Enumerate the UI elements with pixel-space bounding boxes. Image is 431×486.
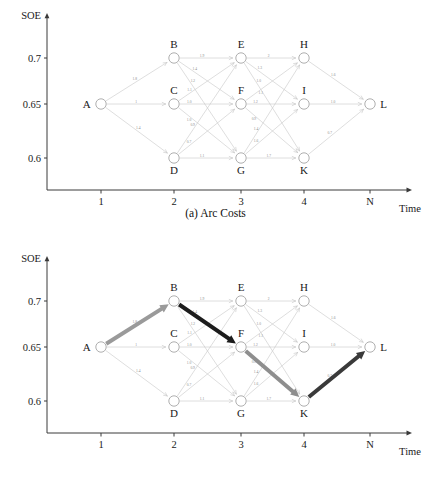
arc-d-f bbox=[179, 109, 235, 154]
arc-c-e bbox=[179, 63, 234, 101]
graph-node-b[interactable] bbox=[169, 296, 179, 306]
arc-d-f bbox=[179, 352, 235, 397]
arc-e-i bbox=[246, 61, 298, 99]
node-label-g: G bbox=[237, 407, 245, 419]
arc-cost-label-d-e: 0.9 bbox=[190, 123, 195, 127]
graph-node-a[interactable] bbox=[96, 99, 106, 109]
panel-arc-costs: SOETime0.70.650.61234N1.811.41.91.41.21.… bbox=[0, 0, 431, 243]
arc-g-i bbox=[245, 109, 297, 154]
x-tick-label: 1 bbox=[98, 439, 103, 450]
arc-cost-label-f-k: 0.9 bbox=[252, 117, 257, 121]
graph-node-l[interactable] bbox=[365, 99, 375, 109]
arc-cost-label-b-e: 1.9 bbox=[200, 297, 205, 301]
graph-node-k[interactable] bbox=[299, 153, 309, 163]
arc-cost-label-f-h: 1.1 bbox=[259, 334, 264, 338]
arc-cost-label-k-l: 0.7 bbox=[327, 131, 332, 135]
node-label-b: B bbox=[170, 281, 177, 293]
arc-a-d bbox=[106, 107, 168, 153]
y-tick-label: 0.7 bbox=[28, 296, 41, 307]
arc-h-l bbox=[309, 61, 363, 99]
graph-node-c[interactable] bbox=[169, 99, 179, 109]
optimal-path-segment-b-f bbox=[178, 303, 236, 344]
arrow-head-c-e bbox=[230, 306, 234, 309]
arc-cost-label-c-e: 1.1 bbox=[187, 331, 192, 335]
y-axis-arrow bbox=[45, 256, 50, 261]
x-tick-label: 1 bbox=[98, 196, 103, 207]
arc-f-h bbox=[246, 306, 298, 344]
y-tick-label: 0.6 bbox=[28, 153, 41, 164]
x-tick-label: 4 bbox=[301, 196, 307, 207]
node-label-e: E bbox=[238, 281, 245, 293]
y-tick-label: 0.7 bbox=[28, 53, 41, 64]
node-label-k: K bbox=[300, 407, 308, 419]
y-axis-arrow bbox=[45, 13, 50, 18]
node-label-d: D bbox=[170, 407, 178, 419]
arc-cost-label-e-i: 1.3 bbox=[257, 309, 262, 313]
node-label-b: B bbox=[170, 38, 177, 50]
arc-cost-label-e-i: 1.3 bbox=[257, 66, 262, 70]
arc-cost-label-b-e: 1.9 bbox=[200, 54, 205, 58]
node-layer: ABCDEFGHIKL bbox=[83, 38, 387, 176]
node-label-l: L bbox=[380, 98, 387, 110]
graph-node-b[interactable] bbox=[169, 53, 179, 63]
arc-f-h bbox=[246, 63, 298, 101]
arc-cost-label-b-f: 1.4 bbox=[193, 67, 198, 71]
graph-node-h[interactable] bbox=[299, 53, 309, 63]
arc-g-h bbox=[244, 308, 299, 396]
x-axis-arrow bbox=[407, 188, 413, 193]
arc-cost-label-b-g: 1.2 bbox=[191, 79, 196, 83]
graph-node-f[interactable] bbox=[236, 99, 246, 109]
optimal-path-segment-f-k bbox=[244, 350, 299, 397]
graph-node-k[interactable] bbox=[299, 396, 309, 406]
graph-node-e[interactable] bbox=[236, 296, 246, 306]
arc-cost-label-i-l: 1.0 bbox=[331, 100, 336, 104]
y-axis-title: SOE bbox=[21, 10, 41, 21]
arc-cost-label-e-h: 2 bbox=[268, 297, 270, 301]
node-label-h: H bbox=[300, 38, 308, 50]
arc-a-d bbox=[106, 350, 168, 396]
arc-layer bbox=[106, 56, 364, 159]
arc-cost-label-e-k: 1.0 bbox=[257, 79, 262, 83]
arc-g-h bbox=[244, 65, 299, 153]
arc-cost-label-f-i: 1.2 bbox=[253, 100, 258, 104]
arc-cost-label-a-c: 1 bbox=[135, 100, 137, 104]
node-label-a: A bbox=[83, 341, 91, 353]
node-label-d: D bbox=[170, 164, 178, 176]
graph-node-c[interactable] bbox=[169, 342, 179, 352]
node-label-e: E bbox=[238, 38, 245, 50]
arc-cost-label-g-i: 1.6 bbox=[254, 139, 259, 143]
graph-node-d[interactable] bbox=[169, 153, 179, 163]
graph-node-f[interactable] bbox=[236, 342, 246, 352]
x-tick-label: 3 bbox=[238, 196, 243, 207]
graph-node-g[interactable] bbox=[236, 396, 246, 406]
graph-node-a[interactable] bbox=[96, 342, 106, 352]
arc-cost-label-c-f: 1.0 bbox=[187, 100, 192, 104]
y-axis-title: SOE bbox=[21, 253, 41, 264]
graph-node-i[interactable] bbox=[299, 342, 309, 352]
panel-cost-to-go: SOETime0.70.650.61234N1.811.41.91.41.21.… bbox=[0, 243, 431, 486]
arc-b-g bbox=[177, 63, 236, 151]
arc-e-k bbox=[244, 306, 299, 394]
arc-cost-label-g-k: 1.7 bbox=[267, 397, 272, 401]
graph-node-i[interactable] bbox=[299, 99, 309, 109]
node-label-i: I bbox=[302, 327, 306, 339]
arc-k-l bbox=[308, 109, 363, 154]
arc-b-g bbox=[177, 306, 236, 394]
arc-cost-label-g-h: 1.4 bbox=[254, 370, 259, 374]
node-label-f: F bbox=[238, 84, 244, 96]
graph-node-g[interactable] bbox=[236, 153, 246, 163]
graph-node-h[interactable] bbox=[299, 296, 309, 306]
arrow-head-h-l bbox=[359, 96, 363, 99]
x-tick-label: 2 bbox=[171, 439, 176, 450]
arc-a-b bbox=[106, 62, 167, 100]
graph-node-e[interactable] bbox=[236, 53, 246, 63]
cost-to-go-diagram: SOETime0.70.650.61234N1.811.41.91.41.21.… bbox=[0, 243, 431, 486]
arc-cost-label-c-e: 1.1 bbox=[187, 88, 192, 92]
x-axis-arrow bbox=[407, 431, 413, 436]
caption-panel-a: (a) Arc Costs bbox=[0, 207, 431, 219]
graph-node-d[interactable] bbox=[169, 396, 179, 406]
graph-node-l[interactable] bbox=[365, 342, 375, 352]
arc-cost-label-d-f: 0.7 bbox=[187, 383, 192, 387]
x-tick-label: N bbox=[366, 439, 374, 450]
node-label-h: H bbox=[300, 281, 308, 293]
